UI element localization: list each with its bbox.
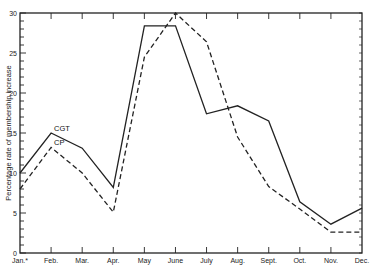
x-tick-label: Feb.	[44, 257, 58, 264]
line-chart: 051015202530 Jan.*Feb.Mar.Apr.MayJuneJul…	[0, 0, 376, 267]
x-tick-label: June	[168, 257, 183, 264]
x-tick-label: May	[138, 257, 152, 265]
x-tick-label: Apr.	[107, 257, 120, 265]
x-tick-label: Sept.	[261, 257, 277, 265]
series-lines: CGTCP	[20, 13, 362, 232]
plot-border	[20, 13, 362, 253]
series-cp-line	[20, 13, 362, 232]
y-tick-label: 30	[9, 10, 17, 17]
plot-frame	[20, 13, 362, 253]
x-tick-label: Dec.	[355, 257, 369, 264]
x-tick-label: Nov.	[324, 257, 338, 264]
x-tick-label: Jan.*	[12, 257, 28, 264]
x-tick-label: Oct.	[293, 257, 306, 264]
y-axis: 051015202530	[9, 10, 362, 257]
x-tick-label: Aug.	[230, 257, 244, 265]
y-tick-label: 25	[9, 50, 17, 57]
x-tick-label: July	[200, 257, 213, 265]
series-label-cp: CP	[54, 138, 64, 147]
x-axis: Jan.*Feb.Mar.Apr.MayJuneJulyAug.Sept.Oct…	[12, 13, 369, 265]
y-axis-label: Percentage rate of membership increase	[4, 65, 13, 201]
y-tick-label: 5	[13, 210, 17, 217]
y-tick-label: 0	[13, 250, 17, 257]
x-tick-label: Mar.	[75, 257, 89, 264]
series-label-cgt: CGT	[54, 124, 70, 133]
series-cgt-line	[20, 26, 362, 224]
